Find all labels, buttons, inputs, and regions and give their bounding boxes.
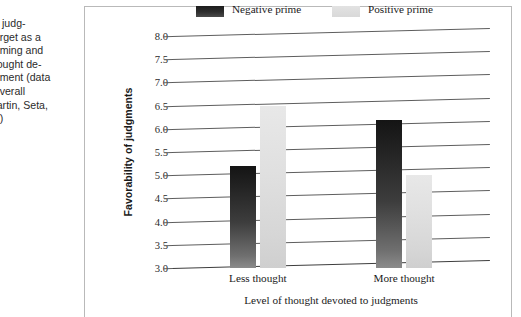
gridline: [172, 98, 490, 107]
gridline: [172, 144, 490, 153]
y-tick-mark: [164, 106, 173, 107]
bar-more-thought-negative-prime: [376, 120, 402, 268]
y-tick-mark: [164, 222, 173, 223]
gridline: [172, 237, 490, 246]
y-tick-mark: [164, 245, 173, 246]
legend-label-positive: Positive prime: [368, 3, 433, 15]
caption-line: f Martin, Seta,: [0, 99, 86, 113]
bar-chart: Favorability of judgments 8.07.57.06.56.…: [142, 36, 490, 268]
legend-swatch-positive-icon: [332, 6, 360, 17]
bar-less-thought-negative-prime: [230, 166, 256, 268]
x-axis-line: [172, 260, 490, 269]
bar-more-thought-positive-prime: [406, 175, 432, 268]
gridline: [172, 74, 490, 83]
plot-grid: [172, 36, 490, 268]
y-tick-mark: [164, 36, 173, 37]
gridline: [172, 51, 490, 60]
y-tick-mark: [164, 152, 173, 153]
caption-line: 990): [0, 112, 86, 126]
chart-legend: Negative prime Positive prime: [196, 3, 446, 25]
caption-line: f thought de-: [0, 58, 86, 72]
gridline: [172, 167, 490, 176]
x-axis-tick-labels: Less thoughtMore thought: [172, 272, 490, 288]
bar-less-thought-positive-prime: [260, 106, 286, 268]
gridline: [172, 121, 490, 130]
x-tick-label: More thought: [374, 272, 435, 284]
y-axis-title: Favorability of judgments: [122, 88, 134, 217]
caption-line: a target as a: [0, 31, 86, 45]
y-tick-mark: [164, 268, 173, 269]
caption-line: udgment (data: [0, 71, 86, 85]
figure-number: 7: [0, 2, 86, 16]
x-tick-label: Less thought: [229, 272, 287, 284]
legend-label-negative: Negative prime: [232, 3, 301, 15]
gridline: [172, 190, 490, 199]
y-tick-mark: [164, 129, 173, 130]
caption-line: y of judg-: [0, 17, 86, 31]
figure-caption: 7 y of judg- a target as a f priming and…: [0, 2, 86, 126]
caption-line: f priming and: [0, 44, 86, 58]
gridline: [172, 214, 490, 223]
legend-swatch-negative-icon: [196, 6, 224, 17]
caption-line: te overall: [0, 85, 86, 99]
x-axis-title: Level of thought devoted to judgments: [172, 294, 490, 306]
